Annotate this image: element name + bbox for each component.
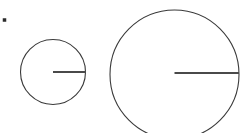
circles-diagram: [0, 0, 247, 133]
bullet-dot-icon: [3, 18, 7, 22]
figure-background: [0, 0, 247, 133]
figure-canvas: [0, 0, 247, 133]
